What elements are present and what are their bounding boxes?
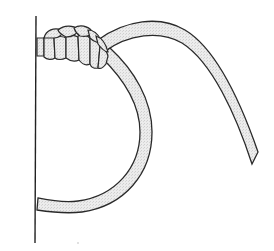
tail-rope bbox=[98, 21, 258, 164]
loop-rope bbox=[37, 48, 152, 213]
pole bbox=[35, 16, 36, 243]
wraps bbox=[37, 26, 108, 68]
knot-diagram: Knot tied to a vertical spar Line drawin… bbox=[0, 0, 274, 251]
speck bbox=[77, 242, 79, 244]
knot-illustration bbox=[0, 0, 274, 251]
